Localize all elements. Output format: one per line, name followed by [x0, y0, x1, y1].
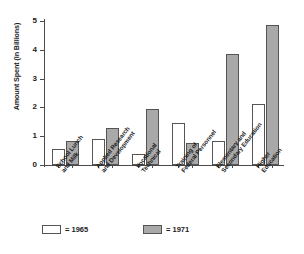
bar-group	[252, 21, 279, 165]
legend-item-1965: = 1965	[42, 225, 88, 234]
legend-swatch-1971-icon	[143, 225, 162, 234]
bar-chart-figure: Amount Spent (in Billions) 012345 School…	[0, 0, 304, 254]
chart-legend: = 1965 = 1971	[42, 225, 262, 241]
legend-label-1971: = 1971	[166, 225, 189, 234]
legend-label-1965: = 1965	[65, 225, 88, 234]
x-axis-category-labels: School Lunchand MilkApplied Researchand …	[44, 165, 294, 217]
legend-swatch-1965-icon	[42, 225, 61, 234]
y-axis-tick-label: 1	[33, 131, 37, 141]
legend-item-1971: = 1971	[143, 225, 189, 234]
y-axis-tick-label: 3	[33, 74, 37, 84]
y-axis-title-wrap: Amount Spent (in Billions)	[0, 0, 30, 170]
y-axis-title: Amount Spent (in Billions)	[12, 7, 21, 127]
y-axis-tick-label: 2	[33, 102, 37, 112]
y-axis-tick-label: 0	[33, 160, 37, 170]
y-axis-tick-label: 4	[33, 45, 37, 55]
y-axis-tick-label: 5	[33, 16, 37, 26]
